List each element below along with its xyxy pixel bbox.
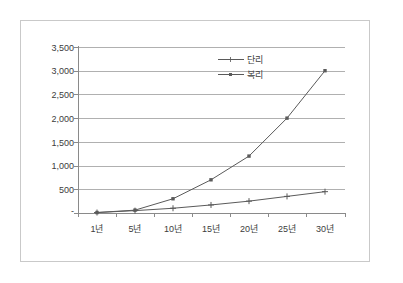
gridline — [78, 94, 345, 95]
x-tick — [345, 213, 346, 217]
gridline — [78, 71, 345, 72]
y-axis-tick-label: 2,500 — [30, 90, 74, 100]
x-axis-tick-label: 15년 — [191, 222, 231, 235]
legend-item-bokri: 복리 — [218, 67, 292, 82]
y-axis-tick-label: 3,500 — [30, 43, 74, 53]
x-axis-tick-label: 25년 — [267, 222, 307, 235]
gridline — [78, 166, 345, 167]
y-axis-line — [78, 46, 79, 214]
y-axis-tick-label: 3,000 — [30, 66, 74, 76]
x-axis-line — [78, 213, 345, 214]
gridline — [78, 189, 345, 190]
x-axis-tick-label: 10년 — [153, 222, 193, 235]
y-tick — [74, 94, 78, 95]
y-tick — [74, 166, 78, 167]
chart-screenshot: 3,500 3,000 2,500 2,000 1,500 1,000 500 … — [0, 0, 403, 283]
x-axis-tick-label: 30년 — [305, 222, 345, 235]
y-axis-tick-label: 500 — [30, 185, 74, 195]
x-tick — [268, 213, 269, 217]
y-axis-zero-label: - — [30, 206, 74, 216]
plot-area — [78, 47, 345, 213]
x-axis-tick-label: 5년 — [115, 222, 155, 235]
y-axis-tick-label: 1,000 — [30, 161, 74, 171]
x-axis-tick-label: 1년 — [77, 222, 117, 235]
x-tick — [230, 213, 231, 217]
y-axis-labels: 3,500 3,000 2,500 2,000 1,500 1,000 500 … — [26, 0, 74, 283]
gridline — [78, 142, 345, 143]
x-axis-tick-label: 20년 — [229, 222, 269, 235]
legend-label-danri: 단리 — [244, 53, 263, 66]
legend-item-danri: 단리 — [218, 52, 292, 67]
x-tick — [306, 213, 307, 217]
gridline — [78, 118, 345, 119]
x-tick — [116, 213, 117, 217]
y-tick — [74, 71, 78, 72]
legend-marker-square-icon — [218, 69, 244, 81]
legend-label-bokri: 복리 — [244, 68, 263, 81]
chart-legend: 단리 복리 — [218, 52, 292, 82]
y-tick — [74, 118, 78, 119]
y-tick — [74, 189, 78, 190]
y-axis-tick-label: 2,000 — [30, 114, 74, 124]
y-axis-tick-label: 1,500 — [30, 138, 74, 148]
legend-marker-plus-icon — [218, 54, 244, 66]
y-tick — [74, 142, 78, 143]
y-tick — [74, 47, 78, 48]
x-tick — [154, 213, 155, 217]
gridline — [78, 47, 345, 48]
x-tick — [78, 213, 79, 217]
x-tick — [192, 213, 193, 217]
